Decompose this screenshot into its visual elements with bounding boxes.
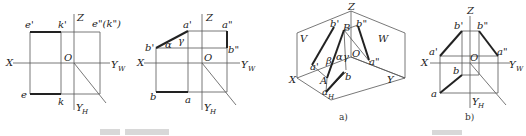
svg-text:H: H (81, 108, 89, 116)
label-e-dd-k-dd: e"(k") (92, 18, 121, 29)
line-b-dd-a-dd (479, 31, 498, 56)
label-a: a (431, 88, 437, 99)
label-z: Z (466, 5, 475, 16)
label-z: Z (205, 12, 214, 23)
diagonal-45-line (202, 63, 236, 105)
label-b-dd: b" (228, 44, 239, 55)
label-b-dd: b" (356, 18, 367, 29)
svg-text:W: W (118, 65, 126, 73)
svg-text:H: H (209, 108, 217, 116)
label-x: X (288, 74, 297, 85)
label-a: a (185, 94, 191, 105)
label-B: B (342, 22, 350, 33)
caption-fragment (125, 129, 169, 135)
label-alpha: α (336, 51, 343, 62)
figure-4-projections: Z b' b" a' a" X O Y W b a Y H b) (420, 5, 524, 122)
label-b: b (453, 65, 459, 76)
label-a-prime: a' (429, 46, 438, 57)
label-e-prime: e' (25, 19, 34, 30)
projection-diagrams: e' k' Z e"(k") X O Y W e k Y H a' Z a" b… (0, 0, 526, 136)
label-y: Y (387, 74, 395, 85)
label-a-prime: a' (310, 61, 319, 72)
label-H: H (327, 93, 335, 101)
label-b: b (345, 71, 351, 82)
figure-2-line-ab: a' Z a" b' α γ b" X O Y W b a Y H (136, 12, 256, 116)
label-W: W (378, 33, 389, 44)
figure-3-axonometric: Z b' B b" V W β α γ O a' a" X A b a H Y … (288, 1, 405, 122)
label-b-prime: b' (145, 42, 154, 53)
label-a-dd: a" (369, 56, 380, 67)
label-k-prime: k' (58, 19, 67, 30)
label-z: Z (76, 12, 85, 23)
label-gamma: γ (178, 35, 184, 46)
line-a-b (440, 75, 462, 93)
label-beta: β (325, 55, 332, 66)
label-z: Z (347, 1, 356, 12)
label-b-prime: b' (330, 18, 339, 29)
label-b: b (150, 91, 156, 102)
label-o: O (204, 52, 212, 63)
svg-text:W: W (516, 65, 524, 73)
label-A: A (319, 75, 327, 86)
label-o: O (64, 52, 72, 63)
label-x: X (5, 57, 14, 68)
diagonal-45-line (74, 63, 106, 103)
caption-fragment (100, 129, 120, 135)
label-k: k (58, 96, 64, 107)
label-b-prime: b' (454, 20, 463, 31)
label-o: O (470, 52, 478, 63)
label-V: V (300, 33, 309, 44)
label-e: e (21, 89, 27, 100)
figure-1-line-ek: e' k' Z e"(k") X O Y W e k Y H (5, 12, 126, 116)
caption-b: b) (465, 112, 474, 122)
label-o: O (352, 48, 360, 59)
label-a-dd: a" (222, 19, 233, 30)
label-a-prime: a' (183, 19, 192, 30)
caption-a: a) (339, 112, 348, 122)
label-gamma: γ (343, 51, 349, 62)
caption-fragment (432, 130, 462, 135)
line-a-prime-b-prime (440, 31, 462, 56)
svg-text:W: W (248, 65, 256, 73)
label-b-dd: b" (477, 20, 488, 31)
svg-text:H: H (477, 102, 485, 110)
label-alpha: α (165, 39, 172, 50)
label-a-dd: a" (497, 46, 508, 57)
label-x: X (420, 57, 429, 68)
label-x: X (136, 57, 145, 68)
